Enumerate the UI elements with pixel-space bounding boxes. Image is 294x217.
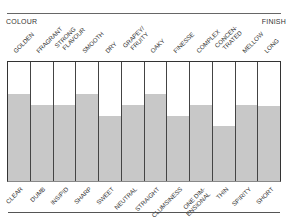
bottom-category-label: SHORT [255,186,275,206]
top-category-label: GOLDEN [13,31,36,54]
bar-fill [31,105,53,181]
bottom-category-label: THIN [215,186,230,201]
label-line: MELLOW [241,30,265,54]
top-category-label: MELLOW [241,30,265,54]
top-rule [7,13,281,14]
bar-fill [145,94,167,181]
bar-column [99,62,122,181]
bar-column [190,62,213,181]
bar-column [213,62,236,181]
bar-chart [7,61,281,182]
bottom-category-label: CLEAR [5,186,24,205]
bar-fill [76,94,98,181]
top-category-label: SMOOTH [81,30,105,54]
bar-column [122,62,145,181]
label-line: SHORT [255,186,275,206]
label-line: THIN [215,186,230,201]
bar-fill [99,116,121,181]
header-colour: COLOUR [6,18,37,25]
bar-column [76,62,99,181]
label-line: DRY [104,40,118,54]
bottom-category-label: DUMB [30,186,47,203]
bar-fill [167,116,189,181]
bar-column [31,62,54,181]
header-finish: FINISH [262,18,286,25]
bar-fill [8,94,30,181]
top-category-label: OAKY [150,37,167,54]
bottom-category-label: SPIRITY [231,186,253,208]
bottom-category-label: INSIPID [49,186,69,206]
label-line: CLEAR [5,186,24,205]
label-line: SMOOTH [81,30,105,54]
bar-fill [190,105,212,181]
bar-fill [54,105,76,181]
label-line: SHARP [73,186,93,206]
label-line: INSIPID [49,186,69,206]
bar-column [54,62,77,181]
label-line: SPIRITY [231,186,253,208]
bottom-category-label: SHARP [73,186,93,206]
bar-column [258,62,280,181]
bar-fill [122,105,144,181]
bar-column [167,62,190,181]
label-line: LONG [264,37,281,54]
bar-fill [236,105,258,181]
top-category-label: DRY [104,40,118,54]
top-category-label: GRAPEY/FRUITY [122,25,151,54]
top-category-label: LONG [264,37,281,54]
label-line: OAKY [150,37,167,54]
label-line: GOLDEN [13,31,36,54]
top-category-label: FINESSE [172,31,195,54]
bar-column [236,62,259,181]
label-line: SWEET [95,186,115,206]
bar-column [8,62,31,181]
bar-fill [258,106,280,181]
label-line: FINESSE [172,31,195,54]
bar-column [145,62,168,181]
bottom-category-label: SWEET [95,186,115,206]
label-line: DUMB [30,186,47,203]
bar-fill [213,126,235,181]
bottom-rule [8,212,280,213]
